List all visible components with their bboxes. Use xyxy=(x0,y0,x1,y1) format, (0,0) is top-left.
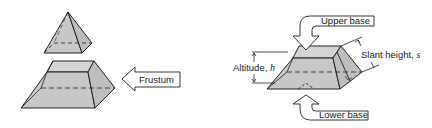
altitude-label: Altitude, h xyxy=(233,62,275,73)
slant-height-label: Slant height, s xyxy=(361,49,420,60)
frustum-callout-arrow: Frustum xyxy=(122,67,180,91)
frustum-label: Frustum xyxy=(139,74,174,85)
slant-symbol: s xyxy=(416,49,420,60)
frustum-right xyxy=(267,46,362,89)
slant-height-text: Slant height, xyxy=(361,49,416,60)
upper-base-callout: Upper base xyxy=(293,15,374,50)
frustum-left xyxy=(21,61,115,108)
altitude-symbol: h xyxy=(270,62,275,73)
upper-base-label: Upper base xyxy=(321,15,370,26)
altitude-text: Altitude, xyxy=(233,62,270,73)
frustum-diagram: Frustum Upper base Lower base xyxy=(0,0,432,128)
lower-base-label: Lower base xyxy=(319,109,368,120)
pyramid-apex xyxy=(44,12,92,53)
